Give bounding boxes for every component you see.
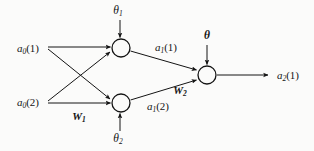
- hidden-activation-label-1: a1(1): [155, 42, 177, 53]
- neural-network-figure: a0(1) a0(2) a1(1) a1(2) a2(1) W1 W2 θ1 θ…: [0, 0, 314, 151]
- bias-label-theta1: θ1: [113, 5, 122, 17]
- output-neuron: [198, 66, 216, 84]
- hidden-neuron-1: [112, 39, 130, 57]
- hidden-neuron-2: [112, 94, 130, 112]
- bias-label-theta2: θ2: [113, 133, 122, 145]
- weight-label-1: W1: [72, 111, 86, 122]
- edge-in1-to-h2: [48, 49, 110, 99]
- input-label-2: a0(2): [17, 97, 39, 108]
- hidden-activation-label-2: a1(2): [147, 101, 169, 112]
- input-label-1: a0(1): [17, 43, 39, 54]
- weight-label-2: W2: [173, 85, 187, 96]
- bias-label-theta-output: θ: [204, 30, 210, 42]
- edge-in2-to-h1: [48, 52, 110, 101]
- output-label: a2(1): [277, 70, 299, 81]
- network-graphics: [0, 0, 314, 151]
